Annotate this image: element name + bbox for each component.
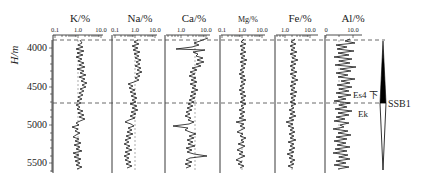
- tick-na-1: 1.0: [131, 26, 139, 33]
- ek-label: Ek: [358, 109, 368, 119]
- top-axis-ticks: [55, 35, 353, 38]
- y-axis-label: H/m: [8, 45, 20, 65]
- y-tick-5500: 5500: [27, 157, 47, 168]
- tick-mg-0: 0.1: [218, 26, 226, 33]
- tick-ca-0: 1.0: [177, 26, 185, 33]
- tick-ca-1: 10.0: [200, 26, 211, 33]
- transgressive-wedge: [380, 103, 386, 170]
- panel-title-ca: Ca/%: [182, 12, 206, 24]
- data-profiles: [72, 38, 356, 169]
- tick-fe-1: 10.0: [304, 26, 315, 33]
- tick-na-2: 10.0: [149, 26, 160, 33]
- tick-al-0: 0: [324, 26, 327, 33]
- tick-k-1: 1.0: [74, 26, 82, 33]
- panel-title-fe: Fe/%: [288, 12, 311, 24]
- y-tick-4500: 4500: [27, 81, 47, 92]
- profile-fe: [286, 39, 298, 168]
- es4-label: Es4 下: [353, 90, 378, 100]
- sequence-wedge: [380, 41, 386, 170]
- tick-k-0: 0.1: [51, 26, 59, 33]
- profile-k: [72, 40, 87, 169]
- panel-title-al: Al/%: [341, 12, 364, 24]
- regressive-wedge: [380, 41, 386, 103]
- profile-mg: [236, 39, 247, 168]
- ssb1-label: SSB1: [388, 98, 411, 109]
- tick-fe-0: 1.0: [281, 26, 289, 33]
- tick-al-1: 10.0: [347, 26, 358, 33]
- profile-al: [333, 39, 356, 169]
- tick-k-2: 10.0: [95, 26, 106, 33]
- y-axis: 4000 4500 5000 5500 H/m: [8, 40, 52, 172]
- geochemical-depth-profile-chart: K/% Na/% Ca/% Mg/% Fe/% Al/% 0.1 1.0 10.…: [0, 0, 424, 187]
- x-tick-labels: 0.1 1.0 10.0 0.1 1.0 10.0 1.0 10.0 0.1 1…: [51, 26, 359, 33]
- tick-mg-2: 10.0: [256, 26, 267, 33]
- panel-title-mg: Mg/%: [238, 15, 258, 24]
- tick-mg-1: 1.0: [238, 26, 246, 33]
- mean-lines: [78, 40, 339, 170]
- y-tick-4000: 4000: [27, 42, 47, 53]
- panel-title-na: Na/%: [127, 12, 152, 24]
- panel-title-k: K/%: [70, 12, 90, 24]
- tick-na-0: 0.1: [111, 26, 119, 33]
- profile-na: [124, 40, 142, 168]
- y-tick-5000: 5000: [27, 119, 47, 130]
